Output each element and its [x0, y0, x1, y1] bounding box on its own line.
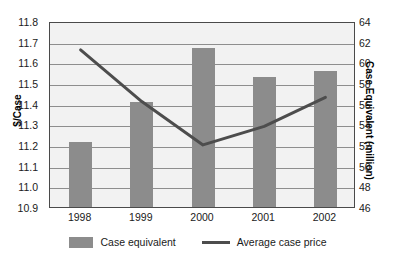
- left-tick-label: 11.1: [18, 162, 38, 172]
- right-tick-label: 50: [359, 162, 371, 172]
- left-tick-label: 11.6: [18, 58, 38, 68]
- x-tick-label: 2000: [172, 211, 232, 223]
- right-tick-label: 64: [359, 17, 371, 27]
- x-tick-label: 2001: [233, 211, 293, 223]
- line-series-average-case-price: [50, 23, 356, 209]
- legend-item-case-equivalent: Case equivalent: [69, 236, 175, 248]
- right-tick-label: 60: [359, 58, 371, 68]
- right-tick-label: 46: [359, 203, 371, 213]
- legend-label-case-equivalent: Case equivalent: [100, 236, 175, 248]
- right-tick-label: 58: [359, 79, 371, 89]
- chart-container: $/Case Case Equivalent (million) 11.811.…: [0, 0, 396, 267]
- right-tick-label: 54: [359, 120, 371, 130]
- x-tick-label: 1998: [50, 211, 110, 223]
- left-tick-label: 11.3: [18, 120, 38, 130]
- right-tick-label: 52: [359, 141, 371, 151]
- legend-swatch-icon: [69, 237, 93, 248]
- left-tick-label: 11.4: [18, 100, 38, 110]
- right-tick-label: 56: [359, 100, 371, 110]
- legend-item-average-case-price: Average case price: [202, 236, 327, 248]
- left-tick-label: 11.2: [18, 141, 38, 151]
- x-tick-label: 1999: [111, 211, 171, 223]
- legend-line-icon: [202, 241, 230, 244]
- left-tick-label: 11.8: [18, 17, 38, 27]
- left-tick-label: 11.0: [18, 182, 38, 192]
- plot-area: [49, 22, 355, 208]
- legend-label-average-case-price: Average case price: [237, 236, 327, 248]
- left-tick-label: 11.5: [18, 79, 38, 89]
- left-tick-label: 11.7: [18, 38, 38, 48]
- left-tick-label: 10.9: [18, 203, 38, 213]
- x-tick-label: 2002: [294, 211, 354, 223]
- right-tick-label: 62: [359, 38, 371, 48]
- chart-legend: Case equivalent Average case price: [0, 236, 396, 248]
- right-tick-label: 48: [359, 182, 371, 192]
